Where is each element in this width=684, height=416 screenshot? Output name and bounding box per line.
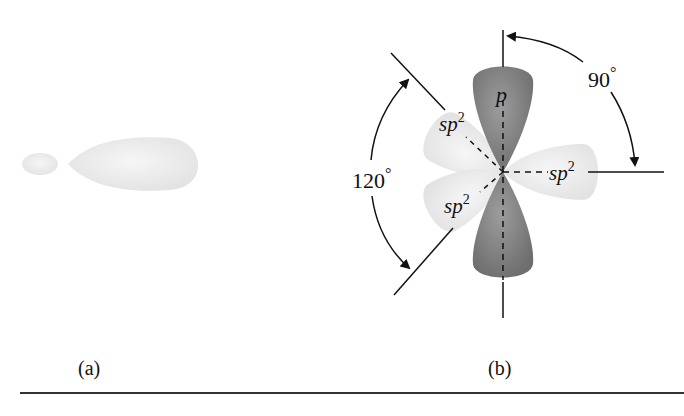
panel-a-orbital (22, 137, 198, 191)
angle-120-arc-lower (372, 196, 409, 268)
orbital-diagram: p sp2 sp2 sp2 90° 120° (0, 0, 684, 416)
caption-a: (a) (78, 357, 100, 380)
label-angle-120: 120° (352, 165, 391, 193)
angle-90-arc-upper (508, 36, 583, 62)
bottom-rule (20, 392, 684, 394)
label-angle-90: 90° (588, 64, 616, 92)
large-lobe (68, 137, 198, 191)
sp2-axis-upper-left (391, 53, 445, 110)
angle-90-arc-lower (611, 92, 635, 165)
label-p: p (494, 82, 507, 107)
panel-b-orbitals: p sp2 sp2 sp2 90° 120° (352, 30, 664, 318)
angle-120-arc-upper (371, 80, 408, 160)
caption-b: (b) (488, 357, 511, 380)
small-lobe (22, 153, 58, 175)
